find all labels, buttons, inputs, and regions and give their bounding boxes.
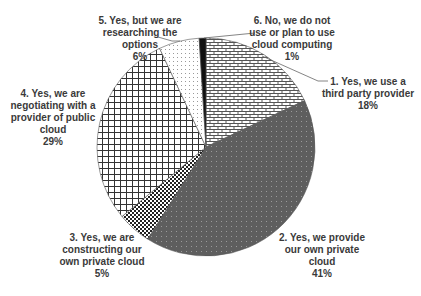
data-label-slice-1: 1. Yes, we use a third party provider 18… [318,76,418,112]
pie-slices [97,38,315,256]
data-label-slice-3: 3. Yes, we are constructing our own priv… [52,232,152,280]
data-label-slice-2: 2. Yes, we provide our own private cloud… [272,232,372,280]
data-label-slice-6: 6. No, we do not use or plan to use clou… [232,15,352,63]
data-label-slice-5: 5. Yes, but we are researching the optio… [80,15,200,63]
data-label-slice-4: 4. Yes, we are negotiating with a provid… [8,88,98,148]
